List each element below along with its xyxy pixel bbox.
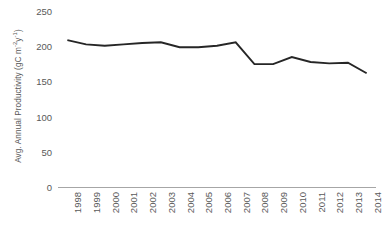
y-axis-title-sup-2: -1 xyxy=(12,32,18,37)
y-axis-tick-labels: 050100150200250 xyxy=(26,0,52,235)
x-tick-label: 2007 xyxy=(241,192,252,232)
y-tick-label: 250 xyxy=(26,7,52,17)
y-tick-label: 150 xyxy=(26,77,52,87)
x-tick-label: 1999 xyxy=(91,192,102,232)
chart-container: Avg. Annual Productivity (gC m-2y-1) 050… xyxy=(0,0,385,235)
y-tick-label: 100 xyxy=(26,113,52,123)
x-tick-label: 2011 xyxy=(316,192,327,232)
x-tick-label: 2003 xyxy=(166,192,177,232)
plot-area xyxy=(58,12,376,188)
x-tick-label: 2010 xyxy=(297,192,308,232)
y-tick-label: 50 xyxy=(26,148,52,158)
x-tick-label: 2006 xyxy=(222,192,233,232)
x-tick-label: 2005 xyxy=(203,192,214,232)
x-tick-label: 2002 xyxy=(147,192,158,232)
x-tick-label: 2001 xyxy=(128,192,139,232)
y-axis-title-mid: y xyxy=(13,37,23,41)
x-tick-label: 2009 xyxy=(278,192,289,232)
y-axis-title-sup-1: -2 xyxy=(12,42,18,47)
y-axis-title: Avg. Annual Productivity (gC m-2y-1) xyxy=(11,0,25,196)
y-axis-title-end: ) xyxy=(13,29,23,32)
x-tick-label: 2014 xyxy=(372,192,383,232)
x-tick-label: 2012 xyxy=(334,192,345,232)
x-axis-tick-labels: 1998199920002001200220032004200520062007… xyxy=(58,188,376,234)
x-tick-label: 2000 xyxy=(110,192,121,232)
line-series-svg xyxy=(58,12,376,188)
y-tick-label: 200 xyxy=(26,42,52,52)
data-line xyxy=(67,40,366,73)
y-axis-title-text: Avg. Annual Productivity (gC m xyxy=(13,47,23,163)
x-tick-label: 2013 xyxy=(353,192,364,232)
x-tick-label: 1998 xyxy=(72,192,83,232)
y-tick-label: 0 xyxy=(26,183,52,193)
x-tick-label: 2004 xyxy=(185,192,196,232)
x-tick-label: 2008 xyxy=(259,192,270,232)
